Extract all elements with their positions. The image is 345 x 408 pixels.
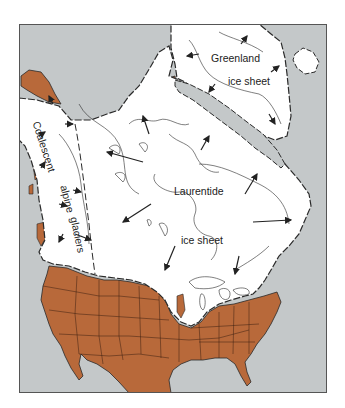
label-greenland-ice-sheet: ice sheet xyxy=(228,76,270,87)
ice-age-map: Greenland ice sheet Laurentide ice sheet… xyxy=(19,24,327,393)
label-laurentide-ice-sheet: ice sheet xyxy=(181,235,223,246)
label-greenland: Greenland xyxy=(211,53,260,64)
label-laurentide: Laurentide xyxy=(174,186,224,197)
